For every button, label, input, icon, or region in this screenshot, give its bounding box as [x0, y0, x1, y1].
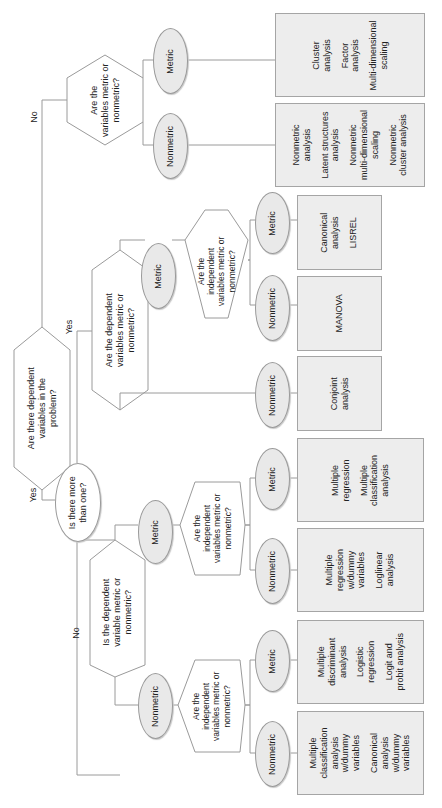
root-no-label: No: [29, 111, 39, 123]
ind-nonmetric-oval-middle: Nonmetric: [255, 538, 290, 604]
conjoint-box: Conjoint analysis: [297, 356, 382, 431]
no-branch-nonmetric-oval: Nonmetric: [153, 113, 188, 179]
ind-metric-oval-lower: Metric: [255, 630, 290, 692]
manova-box: MANOVA: [297, 276, 382, 351]
more-yes-label: Yes: [28, 488, 38, 503]
metric-techniques-box: Cluster analysis Factor analysis Multi-d…: [275, 13, 425, 97]
no-branch-metric-oval: Metric: [153, 28, 188, 94]
multi-metric-oval: Metric: [141, 243, 176, 309]
canonical-lisrel-box: Canonical analysis LISREL: [297, 195, 382, 270]
single-metric-oval: Metric: [138, 500, 173, 564]
single-nonmetric-oval: Nonmetric: [138, 673, 173, 739]
ind-metric-oval-upper: Metric: [255, 192, 290, 254]
nonmetric-techniques-box: Nonmetric analysis Latent structures ana…: [275, 103, 425, 187]
upper-yes-label: Yes: [64, 320, 74, 335]
more-than-one-oval: Is there more than one?: [55, 463, 101, 542]
more-no-label: No: [71, 627, 81, 639]
classification-dummy-box: Multiple classification analysis w/dummy…: [297, 711, 424, 795]
dependent-vars-question: Are the dependent variables metric or no…: [92, 270, 148, 390]
single-dependent-question: Is the dependent variable metric or nonm…: [90, 560, 145, 665]
variables-question: Are the variables metric or nonmetric?: [67, 55, 143, 145]
regression-dummy-box: Multiple regression w/dummy variables Lo…: [297, 528, 424, 612]
ind-vars-question-lower: Are the independent variables metric or …: [178, 660, 245, 752]
ind-vars-question-upper: Are the independent variables metric or …: [185, 225, 248, 317]
ind-metric-oval-middle: Metric: [255, 448, 290, 510]
ind-nonmetric-oval-lower: Nonmetric: [255, 721, 290, 787]
root-question: Are there dependent variables in the pro…: [14, 350, 70, 467]
ind-vars-question-middle: Are the independent variables metric or …: [180, 482, 245, 575]
ind-nonmetric-oval-upper: Nonmetric: [255, 275, 290, 341]
discriminant-box: Multiple discriminant analysis Logistic …: [297, 620, 424, 704]
multiple-regression-box: Multiple regression Multiple classificat…: [297, 438, 424, 522]
multi-nonmetric-oval: Nonmetric: [255, 362, 290, 428]
